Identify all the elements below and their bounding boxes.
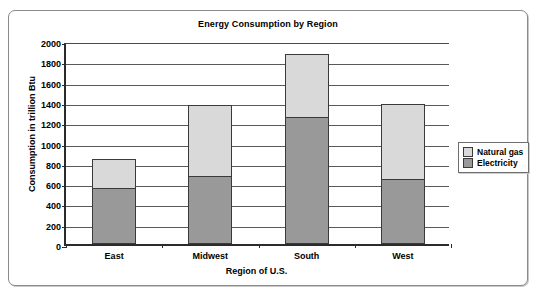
y-tick-label: 1000	[41, 141, 61, 151]
y-tick-label: 1800	[41, 59, 61, 69]
y-axis-title: Consumption in trillion Btu	[27, 49, 37, 219]
legend-swatch-icon	[463, 158, 473, 168]
bar-segment-electricity[interactable]	[285, 117, 329, 244]
legend-label: Natural gas	[477, 147, 523, 157]
y-tick-mark	[62, 206, 66, 207]
chart-legend: Natural gasElectricity	[458, 142, 529, 173]
bar-group[interactable]	[285, 54, 329, 244]
x-tick-mark	[355, 244, 356, 248]
y-tick-mark	[62, 125, 66, 126]
plot-area: 2000180016001400120010008006004002000Eas…	[64, 34, 449, 246]
x-axis-title: Region of U.S.	[64, 266, 449, 276]
legend-swatch-icon	[463, 147, 473, 157]
plot-inner: 2000180016001400120010008006004002000Eas…	[64, 43, 449, 246]
x-category-label: South	[294, 251, 320, 261]
bar-segment-natural-gas[interactable]	[381, 104, 425, 179]
y-tick-mark	[62, 227, 66, 228]
y-tick-mark	[62, 64, 66, 65]
y-tick-mark	[62, 146, 66, 147]
y-tick-label: 2000	[41, 39, 61, 49]
bar-group[interactable]	[92, 159, 136, 244]
y-tick-label: 400	[46, 201, 61, 211]
x-tick-mark	[66, 244, 67, 248]
y-tick-label: 1400	[41, 100, 61, 110]
legend-item[interactable]: Natural gas	[463, 147, 523, 157]
y-tick-label: 1200	[41, 120, 61, 130]
y-tick-mark	[62, 85, 66, 86]
bar-segment-electricity[interactable]	[381, 179, 425, 244]
gridline	[66, 64, 449, 65]
x-tick-mark	[162, 244, 163, 248]
y-tick-mark	[62, 44, 66, 45]
y-tick-label: 200	[46, 222, 61, 232]
x-category-label: East	[105, 251, 124, 261]
bar-segment-natural-gas[interactable]	[285, 54, 329, 116]
bar-group[interactable]	[381, 104, 425, 244]
bar-segment-electricity[interactable]	[188, 176, 232, 244]
x-tick-mark	[259, 244, 260, 248]
legend-label: Electricity	[477, 158, 518, 168]
y-tick-label: 1600	[41, 80, 61, 90]
y-tick-label: 600	[46, 181, 61, 191]
y-tick-mark	[62, 186, 66, 187]
y-tick-mark	[62, 166, 66, 167]
chart-title: Energy Consumption by Region	[9, 19, 527, 29]
legend-item[interactable]: Electricity	[463, 158, 523, 168]
x-category-label: Midwest	[193, 251, 229, 261]
y-tick-label: 0	[56, 242, 61, 252]
x-tick-mark	[451, 244, 452, 248]
gridline	[66, 85, 449, 86]
bar-segment-natural-gas[interactable]	[92, 159, 136, 188]
bar-segment-electricity[interactable]	[92, 188, 136, 244]
y-tick-label: 800	[46, 161, 61, 171]
bar-segment-natural-gas[interactable]	[188, 105, 232, 176]
x-category-label: West	[392, 251, 413, 261]
bar-group[interactable]	[188, 105, 232, 244]
y-tick-mark	[62, 105, 66, 106]
chart-frame: Energy Consumption by Region Consumption…	[8, 10, 528, 286]
